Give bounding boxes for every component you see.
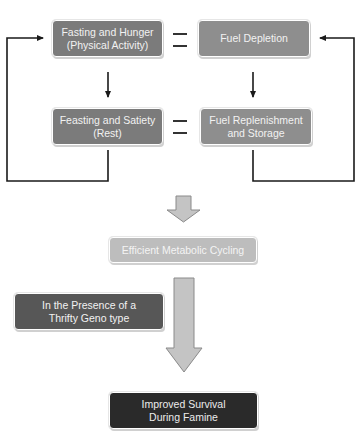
improved-survival-line1: Improved Survival <box>141 398 225 410</box>
fasting-hunger-line2: (Physical Activity) <box>67 39 149 51</box>
thrifty-genotype-line1: In the Presence of a <box>42 299 136 311</box>
fasting-hunger-box: Fasting and Hunger (Physical Activity) <box>52 20 163 57</box>
connectors-layer <box>0 0 363 432</box>
block-arrow-large <box>166 278 202 372</box>
equals-icon-top <box>173 34 187 46</box>
fuel-replenishment-box: Fuel Replenishment and Storage <box>200 108 312 145</box>
thrifty-genotype-box: In the Presence of a Thrifty Geno type <box>14 293 164 330</box>
thrifty-genotype-line2: Thrifty Geno type <box>49 312 130 324</box>
improved-survival-line2: During Famine <box>149 411 218 423</box>
efficient-metabolic-cycling-box: Efficient Metabolic Cycling <box>109 237 257 263</box>
fuel-replenishment-line2: and Storage <box>227 127 284 139</box>
feasting-satiety-line1: Feasting and Satiety <box>60 114 156 126</box>
efficient-metabolic-cycling-label: Efficient Metabolic Cycling <box>122 244 244 257</box>
feasting-satiety-box: Feasting and Satiety (Rest) <box>52 108 163 145</box>
fuel-depletion-box: Fuel Depletion <box>198 20 310 57</box>
block-arrow-small <box>167 196 200 222</box>
equals-icon-bottom <box>173 121 187 133</box>
fuel-depletion-label: Fuel Depletion <box>220 32 288 45</box>
fuel-replenishment-line1: Fuel Replenishment <box>209 114 302 126</box>
fasting-hunger-line1: Fasting and Hunger <box>61 26 153 38</box>
improved-survival-box: Improved Survival During Famine <box>109 392 258 429</box>
feasting-satiety-line2: (Rest) <box>93 127 122 139</box>
